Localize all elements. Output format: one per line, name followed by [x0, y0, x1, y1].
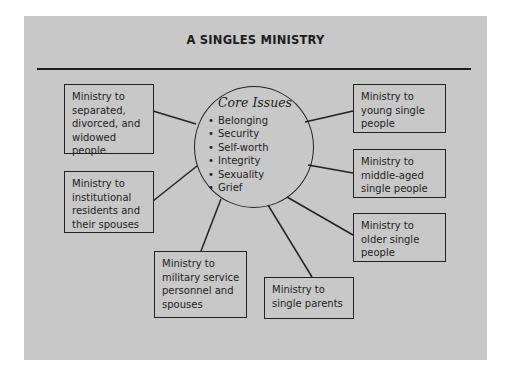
connector-single-parents [268, 205, 312, 277]
ministry-box-single-parents: Ministry to single parents [264, 277, 354, 319]
connector-institutional [153, 166, 197, 201]
core-issue-item: Security [208, 127, 269, 140]
ministry-box-young: Ministry to young single people [353, 84, 446, 133]
core-issue-item: Grief [208, 181, 269, 194]
ministry-box-separated: Ministry to separated, divorced, and wid… [64, 84, 154, 154]
ministry-box-middle-aged: Ministry to middle-aged single people [353, 149, 446, 198]
ministry-box-older: Ministry to older single people [353, 213, 446, 262]
connector-older [287, 197, 353, 235]
core-issue-item: Integrity [208, 154, 269, 167]
core-issue-item: Belonging [208, 114, 269, 127]
connector-middle-aged [308, 165, 353, 173]
core-issues-heading: Core Issues [195, 95, 315, 110]
connector-young [305, 111, 353, 122]
core-issues-list: Belonging Security Self-worth Integrity … [208, 114, 269, 194]
connector-military [201, 199, 221, 251]
core-issues-circle: Core Issues Belonging Security Self-wort… [194, 86, 314, 208]
core-issue-item: Sexuality [208, 168, 269, 181]
connector-separated [153, 111, 196, 124]
ministry-box-institutional: Ministry to institutional residents and … [64, 171, 154, 233]
ministry-box-military: Ministry to military service personnel a… [154, 251, 247, 318]
core-issue-item: Self-worth [208, 141, 269, 154]
